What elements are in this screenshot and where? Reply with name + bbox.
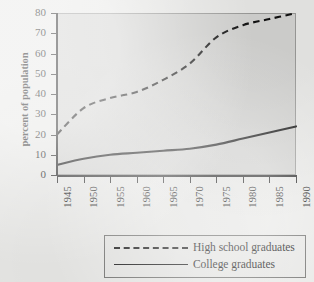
x-tick-mark: [84, 176, 85, 183]
x-tick-label: 1965: [168, 186, 179, 208]
x-tick-mark: [163, 176, 164, 183]
series-line-high-school-graduates: [57, 13, 296, 135]
y-tick-label: 0: [6, 169, 46, 180]
x-tick-label: 1955: [115, 186, 126, 208]
x-tick-mark: [110, 176, 111, 183]
x-tick-mark: [57, 176, 58, 183]
legend-solid-line-icon: [114, 259, 188, 269]
x-tick-label: 1950: [88, 186, 99, 208]
x-tick-label: 1980: [247, 186, 258, 208]
y-tick-label: 70: [6, 27, 46, 38]
legend: High school graduates College graduates: [104, 235, 306, 278]
series-line-college-graduates: [57, 126, 296, 164]
plot-series-layer: [57, 13, 296, 175]
y-tick-label: 40: [6, 88, 46, 99]
x-tick-label: 1970: [194, 186, 205, 208]
legend-label-college-graduates: College graduates: [193, 258, 275, 270]
legend-dashed-line-icon: [114, 242, 188, 252]
x-axis-line: [57, 175, 297, 177]
x-tick-mark: [269, 176, 270, 183]
y-tick-label: 50: [6, 68, 46, 79]
x-tick-mark: [216, 176, 217, 183]
y-tick-label: 10: [6, 149, 46, 160]
x-tick-mark: [243, 176, 244, 183]
y-tick-mark: [51, 155, 58, 156]
y-tick-mark: [51, 94, 58, 95]
y-tick-mark: [51, 114, 58, 115]
legend-item-college-graduates: College graduates: [114, 258, 275, 270]
y-tick-mark: [51, 74, 58, 75]
y-tick-label: 60: [6, 48, 46, 59]
y-tick-mark: [51, 135, 58, 136]
x-tick-mark: [137, 176, 138, 183]
x-tick-label: 1990: [301, 186, 312, 208]
legend-item-high-school-graduates: High school graduates: [114, 241, 295, 253]
y-tick-label: 20: [6, 129, 46, 140]
y-tick-mark: [51, 54, 58, 55]
legend-label-high-school-graduates: High school graduates: [193, 241, 295, 253]
x-tick-label: 1985: [274, 186, 285, 208]
x-tick-mark: [296, 176, 297, 183]
x-tick-mark: [190, 176, 191, 183]
y-tick-mark: [51, 13, 58, 14]
x-tick-label: 1945: [62, 186, 73, 208]
y-tick-label: 80: [6, 7, 46, 18]
x-tick-label: 1960: [141, 186, 152, 208]
y-tick-label: 30: [6, 108, 46, 119]
x-tick-label: 1975: [221, 186, 232, 208]
figure-line-chart: percent of population 01020304050607080 …: [0, 0, 314, 282]
y-tick-mark: [51, 33, 58, 34]
